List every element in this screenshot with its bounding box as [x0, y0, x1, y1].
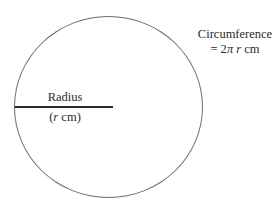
radius-line	[15, 106, 113, 108]
circumference-label: Circumference = 2π r cm	[194, 27, 276, 57]
radius-value: (r cm)	[35, 110, 95, 124]
formula-unit: cm	[241, 42, 259, 56]
circumference-title: Circumference	[194, 27, 276, 42]
radius-unit: cm)	[58, 110, 81, 124]
radius-label: Radius	[35, 90, 95, 104]
circumference-formula: = 2π r cm	[194, 42, 276, 57]
formula-eq: = 2	[210, 42, 226, 56]
circle-diagram: Radius (r cm) Circumference = 2π r cm	[0, 0, 278, 212]
formula-pi: π	[227, 42, 236, 56]
